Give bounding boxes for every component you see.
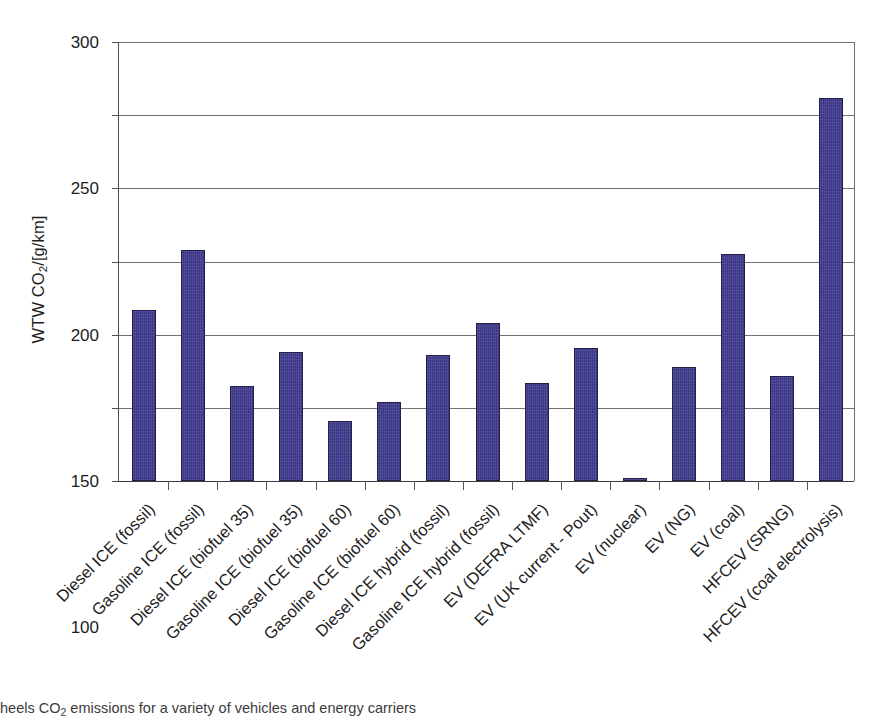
x-tick-mark: [217, 481, 218, 490]
x-tick-mark: [610, 481, 611, 490]
y-tick-mark: 200: [112, 188, 119, 189]
x-tick-mark: [758, 481, 759, 490]
bar-series: [119, 42, 854, 481]
bar: [672, 367, 696, 481]
y-axis-title-prefix: WTW CO: [29, 272, 47, 343]
x-tick-mark: [365, 481, 366, 490]
x-tick-mark: [561, 481, 562, 490]
y-axis-title-suffix: /[g/km]: [29, 216, 47, 266]
bar: [230, 386, 254, 481]
bar: [819, 98, 843, 481]
bar: [279, 352, 303, 481]
y-tick-mark: 250: [112, 115, 119, 116]
x-tick-mark: [463, 481, 464, 490]
caption-suffix: emissions for a variety of vehicles and …: [66, 700, 416, 716]
caption-prefix: heels CO: [0, 700, 60, 716]
y-tick-label: 300: [71, 33, 99, 53]
figure-caption: heels CO2 emissions for a variety of veh…: [0, 700, 887, 716]
bar: [426, 355, 450, 481]
bar: [574, 348, 598, 481]
bar: [525, 383, 549, 481]
y-axis-title-subscript: 2: [37, 266, 49, 273]
x-tick-mark: [316, 481, 317, 490]
bar: [770, 376, 794, 481]
x-tick-mark: [807, 481, 808, 490]
y-tick-mark: 50: [112, 408, 119, 409]
y-tick-label: 150: [71, 472, 99, 492]
gridline: [119, 481, 854, 482]
x-tick-mark: [266, 481, 267, 490]
x-tick-mark: [414, 481, 415, 490]
chart-figure: WTW CO2/[g/km] 300250200150100500 Diesel…: [0, 0, 887, 720]
caption-subscript: 2: [60, 706, 66, 716]
bar: [721, 254, 745, 481]
x-tick-mark: [659, 481, 660, 490]
bar: [623, 478, 647, 481]
x-tick-mark: [168, 481, 169, 490]
x-tick-mark: [709, 481, 710, 490]
bar: [132, 310, 156, 481]
y-axis-title: WTW CO2/[g/km]: [29, 175, 48, 385]
x-tick-mark: [512, 481, 513, 490]
bar: [476, 323, 500, 481]
y-tick-mark: 100: [112, 335, 119, 336]
y-tick-mark: 0: [112, 481, 119, 482]
y-tick-mark: 300: [112, 42, 119, 43]
plot-area: 300250200150100500: [118, 42, 855, 481]
y-tick-label: 250: [71, 179, 99, 199]
bar: [181, 250, 205, 481]
bar: [328, 421, 352, 481]
y-tick-mark: 150: [112, 262, 119, 263]
y-tick-label: 200: [71, 326, 99, 346]
bar: [377, 402, 401, 481]
